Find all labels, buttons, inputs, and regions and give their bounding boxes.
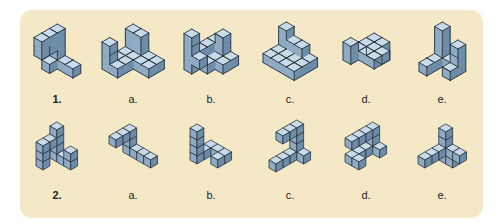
- figure-2-a: [109, 124, 157, 168]
- figure-panel: [20, 10, 483, 218]
- figure-2-e: [418, 124, 466, 168]
- figure-label: c.: [270, 93, 310, 105]
- figure-2-c: [269, 120, 311, 172]
- figure-2-d: [345, 122, 387, 170]
- figure-1-c: [263, 22, 318, 81]
- figure-label: e.: [422, 93, 462, 105]
- figure-label: c.: [270, 189, 310, 201]
- figure-label: 2.: [37, 189, 77, 201]
- figure-1-b: [184, 29, 239, 74]
- figure-label: a.: [113, 189, 153, 201]
- figure-label: d.: [346, 189, 386, 201]
- figure-1-1: [34, 24, 81, 78]
- figure-1-d: [343, 33, 390, 69]
- figure-label: d.: [346, 93, 386, 105]
- figure-2-b: [190, 124, 232, 168]
- figure-label: e.: [422, 189, 462, 201]
- figure-label: b.: [191, 189, 231, 201]
- figure-2-2: [36, 122, 78, 170]
- figure-label: a.: [113, 93, 153, 105]
- figure-1-e: [419, 22, 466, 81]
- figure-label: 1.: [37, 93, 77, 105]
- figure-label: b.: [191, 93, 231, 105]
- figure-1-a: [102, 24, 164, 78]
